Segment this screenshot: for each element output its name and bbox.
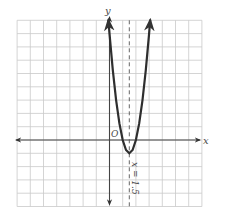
symmetry-line-label: x = 1.5 [130, 162, 140, 195]
origin-label: O [111, 129, 119, 139]
parabola-graph: x y O x = 1.5 [0, 0, 225, 219]
y-axis-label: y [104, 5, 111, 16]
x-axis-label: x [203, 135, 209, 146]
